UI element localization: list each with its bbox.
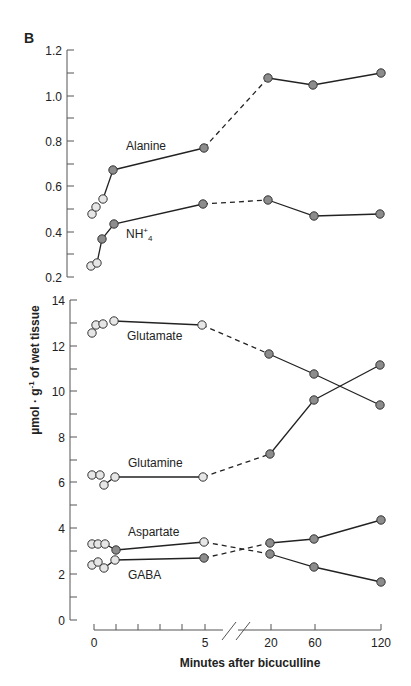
label-glutamate: Glutamate xyxy=(127,329,183,343)
x-tick-label: 0 xyxy=(91,636,98,650)
y-tick-label: 14 xyxy=(52,294,66,308)
y-tick-label: 10 xyxy=(52,385,66,399)
upper-y-axis xyxy=(67,50,74,277)
label-nh4: NH+4 xyxy=(126,226,153,243)
x-axis xyxy=(94,624,381,630)
x-tick-labels: 0 5 20 60 120 xyxy=(91,636,392,650)
x-tick-label: 5 xyxy=(202,636,209,650)
chart: B 1.2 1.0 0.8 0.6 0.4 0.2 xyxy=(0,0,411,686)
x-tick-label: 20 xyxy=(264,636,278,650)
y-tick-label: 0.4 xyxy=(45,226,62,240)
label-aspartate: Aspartate xyxy=(128,525,180,539)
y-tick-label: 1.2 xyxy=(45,44,62,58)
y-tick-label: 4 xyxy=(58,522,65,536)
x-axis-title: Minutes after bicuculline xyxy=(180,656,321,670)
label-gaba: GABA xyxy=(128,568,161,582)
y-tick-label: 0.8 xyxy=(45,135,62,149)
panel-label: B xyxy=(24,30,34,46)
y-tick-label: 6 xyxy=(58,476,65,490)
y-tick-label: 12 xyxy=(52,340,66,354)
y-tick-label: 0 xyxy=(58,614,65,628)
y-tick-label: 0.2 xyxy=(45,271,62,285)
lower-y-tick-labels: 14 12 10 8 6 4 2 0 xyxy=(52,294,66,628)
label-alanine: Alanine xyxy=(126,139,166,153)
upper-y-tick-labels: 1.2 1.0 0.8 0.6 0.4 0.2 xyxy=(45,44,62,285)
y-axis-title: µmol · g-1 of wet tissue xyxy=(27,305,42,435)
x-tick-label: 60 xyxy=(308,636,322,650)
y-tick-label: 0.6 xyxy=(45,180,62,194)
y-tick-label: 8 xyxy=(58,431,65,445)
y-tick-label: 2 xyxy=(58,568,65,582)
lower-y-axis xyxy=(70,300,77,620)
y-tick-label: 1.0 xyxy=(45,90,62,104)
label-glutamine: Glutamine xyxy=(128,456,183,470)
axis-break-icon xyxy=(222,622,250,640)
x-tick-label: 120 xyxy=(371,636,391,650)
